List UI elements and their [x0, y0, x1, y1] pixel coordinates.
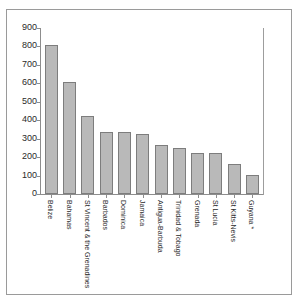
- x-axis-category-label: St Kitts-Nevis: [229, 200, 237, 242]
- x-axis-tick-mark: [106, 195, 107, 198]
- y-axis-tick-mark: [37, 157, 40, 158]
- y-axis-tick-mark: [37, 46, 40, 47]
- y-axis-tick-mark: [37, 83, 40, 84]
- x-axis-category-label: Jamaica: [138, 200, 146, 226]
- x-axis-category-label: St Lucia: [211, 200, 219, 225]
- x-axis-tick-mark: [234, 195, 235, 198]
- x-axis-tick-mark: [198, 195, 199, 198]
- x-axis-category-label: Bahamas: [65, 200, 73, 230]
- y-axis-tick-mark: [37, 65, 40, 66]
- x-axis-category-label: Barbados: [101, 200, 109, 230]
- x-axis-category-label: St Vincent & the Grenadines: [83, 200, 91, 288]
- y-axis-tick-mark: [37, 102, 40, 103]
- x-axis-tick-mark: [88, 195, 89, 198]
- chart-figure: 0100200300400500600700800900 BelizeBaham…: [0, 0, 298, 306]
- x-axis-category-label: Grenada: [193, 200, 201, 227]
- y-axis-tick-mark: [37, 28, 40, 29]
- x-axis-category-label: Antigua-Barbuda: [156, 200, 164, 253]
- x-axis-category-label: Belize: [46, 200, 54, 219]
- x-axis-category-label: Guyana *: [247, 200, 255, 229]
- x-axis-tick-mark: [179, 195, 180, 198]
- x-axis-tick-mark: [143, 195, 144, 198]
- x-axis-tick-mark: [252, 195, 253, 198]
- y-axis-tick-mark: [37, 194, 40, 195]
- y-axis-tick-mark: [37, 139, 40, 140]
- x-axis-category-labels: BelizeBahamasSt Vincent & the Grenadines…: [0, 0, 298, 306]
- x-axis-tick-mark: [216, 195, 217, 198]
- x-axis-category-label: Trinidad & Tobago: [174, 200, 182, 256]
- x-axis-tick-mark: [70, 195, 71, 198]
- x-axis-category-label: Dominica: [119, 200, 127, 229]
- x-axis-tick-mark: [124, 195, 125, 198]
- x-axis-tick-mark: [51, 195, 52, 198]
- y-axis-tick-mark: [37, 176, 40, 177]
- x-axis-tick-mark: [161, 195, 162, 198]
- y-axis-tick-mark: [37, 120, 40, 121]
